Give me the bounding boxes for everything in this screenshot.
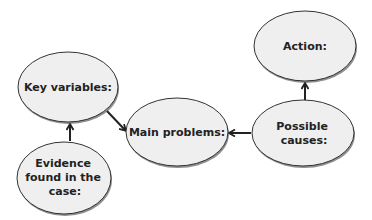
node-possible-causes: Possible causes: [252, 100, 355, 168]
svg-text:Main problems:: Main problems: [129, 126, 225, 139]
node-main-problems: Main problems: [126, 98, 229, 168]
node-action-label: Action: [283, 40, 327, 53]
node-evidence: Evidence found in the case: [17, 142, 112, 216]
svg-text:Action:: Action: [283, 40, 327, 53]
node-action: Action: [254, 11, 357, 83]
node-evidence-line-3: case: [49, 185, 81, 198]
concept-map-diagram: Action: Key variables: Main problems: Po… [0, 0, 372, 220]
node-key-variables-label: Key variables: [24, 81, 112, 94]
node-main-problems-label: Main problems: [129, 126, 225, 139]
node-key-variables: Key variables: [18, 52, 119, 124]
arrow-key-variables-to-main-problems [107, 111, 125, 130]
node-possible-causes-line-2: causes: [281, 134, 328, 147]
node-possible-causes-line-1: Possible [276, 120, 328, 133]
node-evidence-line-2: found in the [25, 171, 101, 184]
svg-text:Key variables:: Key variables: [24, 81, 112, 94]
svg-text:Possible causes:: Possible causes: [276, 120, 331, 147]
node-evidence-line-1: Evidence [35, 157, 91, 170]
